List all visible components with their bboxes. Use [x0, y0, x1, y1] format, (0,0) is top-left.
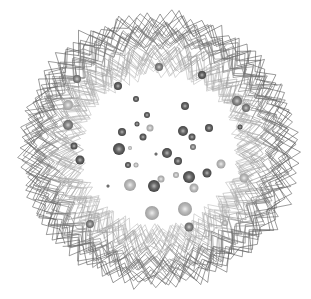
sphere — [145, 206, 159, 220]
sphere — [185, 223, 194, 232]
sphere — [107, 185, 110, 188]
background — [0, 0, 311, 299]
sphere — [114, 82, 122, 90]
sphere — [124, 179, 136, 191]
sphere — [189, 134, 196, 141]
sphere — [113, 143, 125, 155]
sphere — [162, 148, 172, 158]
sphere — [242, 104, 250, 112]
sphere — [140, 134, 147, 141]
sphere — [63, 100, 73, 110]
sphere — [190, 184, 199, 193]
sphere — [173, 172, 179, 178]
sphere — [155, 63, 163, 71]
sphere — [205, 124, 213, 132]
sphere — [198, 71, 206, 79]
sphere — [178, 126, 188, 136]
sphere — [190, 144, 196, 150]
sphere — [158, 176, 165, 183]
sphere — [86, 220, 94, 228]
sphere — [134, 163, 139, 168]
sphere — [232, 96, 242, 106]
sphere — [181, 102, 189, 110]
sphere — [217, 160, 226, 169]
sphere — [76, 156, 85, 165]
sphere — [174, 157, 182, 165]
sphere — [222, 220, 228, 226]
ring-sphere-figure — [0, 0, 311, 299]
sphere — [155, 153, 158, 156]
sphere — [203, 169, 212, 178]
sphere — [178, 202, 192, 216]
sphere — [73, 75, 81, 83]
sphere — [133, 96, 139, 102]
sphere — [183, 171, 195, 183]
sphere — [128, 146, 132, 150]
sphere — [238, 125, 243, 130]
sphere — [240, 174, 249, 183]
sphere — [147, 125, 154, 132]
sphere — [125, 162, 131, 168]
sphere — [148, 180, 160, 192]
sphere — [144, 112, 150, 118]
sphere — [135, 122, 140, 127]
sphere — [118, 128, 126, 136]
sphere — [63, 120, 73, 130]
sphere — [71, 143, 78, 150]
